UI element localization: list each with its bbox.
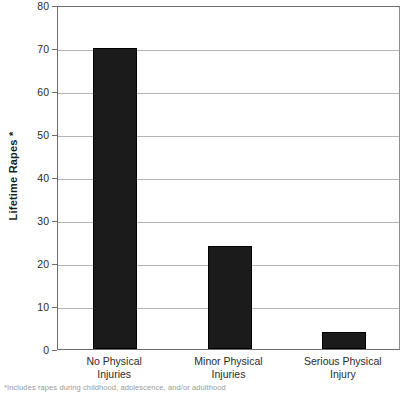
- x-axis-tick-label-line: No Physical: [57, 355, 171, 368]
- y-axis-tick-label: 10: [19, 301, 49, 313]
- bar: [208, 246, 252, 349]
- y-axis-tick-label: 70: [19, 43, 49, 55]
- bar-chart-figure: Lifetime Rapes * 01020304050607080 No Ph…: [0, 0, 414, 394]
- y-axis-tick-label: 80: [19, 0, 49, 12]
- x-axis-tick-label-line: Injuries: [57, 368, 171, 381]
- x-axis-tick-label-line: Injuries: [171, 368, 285, 381]
- y-axis-title-label: Lifetime Rapes *: [7, 132, 19, 221]
- y-axis-tick-label: 30: [19, 215, 49, 227]
- chart-footnote: *Includes rapes during childhood, adoles…: [4, 383, 226, 392]
- plot-area: [57, 6, 400, 350]
- x-axis-tick-label: No PhysicalInjuries: [57, 355, 171, 381]
- x-axis-tick-label-line: Serious Physical: [286, 355, 400, 368]
- y-axis-tick-label: 50: [19, 129, 49, 141]
- y-axis-tick-label: 0: [19, 344, 49, 356]
- y-axis-tick-label: 60: [19, 86, 49, 98]
- y-axis-tick-label: 40: [19, 172, 49, 184]
- y-axis-tick-mark: [52, 350, 57, 351]
- x-axis-tick-label-line: Injury: [286, 368, 400, 381]
- x-axis-tick-label: Minor PhysicalInjuries: [171, 355, 285, 381]
- x-axis-tick-label: Serious PhysicalInjury: [286, 355, 400, 381]
- bar: [322, 332, 366, 349]
- x-axis-tick-label-line: Minor Physical: [171, 355, 285, 368]
- bar: [93, 48, 137, 349]
- y-axis-tick-label: 20: [19, 258, 49, 270]
